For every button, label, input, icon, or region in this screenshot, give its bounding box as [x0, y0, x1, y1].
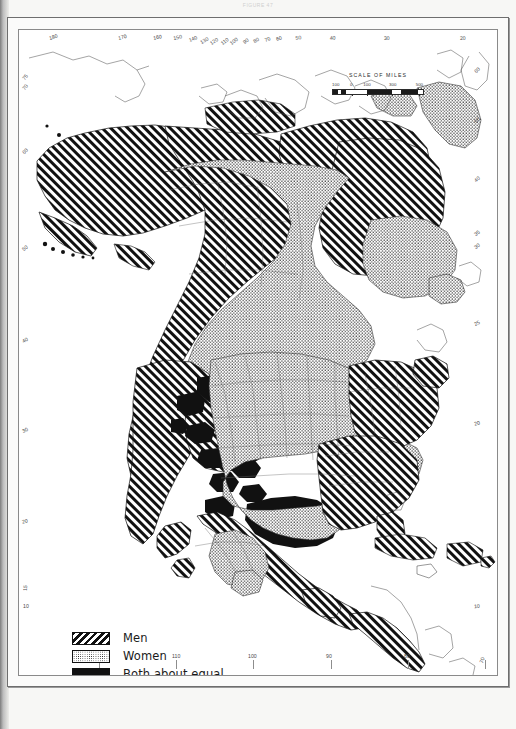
tick-left-15: 15 [22, 585, 28, 591]
scale-label-1: 0 [350, 82, 352, 87]
scale-label-3: 300 [389, 82, 396, 87]
scale-title: SCALE OF MILES [332, 72, 424, 78]
legend-label-women: Women [123, 649, 167, 663]
map-frame-inner: SCALE OF MILES 100 0 100 300 500 [18, 29, 498, 676]
legend-item-women: Women [72, 647, 224, 665]
legend-swatch-women-icon [72, 650, 110, 663]
scale-of-miles: SCALE OF MILES 100 0 100 300 500 [332, 72, 424, 95]
map-legend: Men Women Both about equal [72, 629, 224, 676]
tick-top-50: 50 [295, 34, 302, 41]
scale-numbers: 100 0 100 300 500 [332, 82, 424, 89]
tick-right-10: 10 [474, 603, 480, 610]
legend-label-men: Men [123, 631, 148, 645]
map-canvas [19, 30, 497, 675]
legend-item-men: Men [72, 629, 224, 647]
tick-bot-90: 90 [326, 653, 332, 659]
tick-top-20: 20 [460, 35, 466, 41]
legend-label-equal: Both about equal [123, 667, 224, 676]
map-frame-outer: SCALE OF MILES 100 0 100 300 500 [7, 17, 509, 687]
legend-swatch-men-icon [72, 632, 110, 645]
tick-left-10: 10 [23, 603, 29, 609]
tick-bot-100: 100 [248, 653, 257, 659]
figure-caption: FIGURE 47 [0, 0, 516, 10]
scale-label-4: 500 [416, 82, 423, 87]
scale-bar-graphic [332, 89, 424, 95]
legend-item-equal: Both about equal [72, 665, 224, 676]
scanned-page: FIGURE 47 [0, 0, 516, 729]
scale-label-2: 100 [363, 82, 370, 87]
scale-label-0: 100 [332, 82, 339, 87]
legend-swatch-equal-icon [72, 668, 110, 677]
tick-bot-80: 80 [404, 653, 410, 659]
tick-top-30: 30 [384, 35, 390, 41]
tick-top-40: 40 [329, 34, 335, 41]
